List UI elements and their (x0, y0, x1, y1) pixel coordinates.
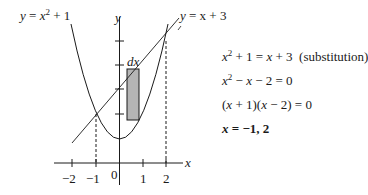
eq2-tail: − 2 = 0 (252, 73, 293, 88)
equation-solution: x = −1, 2 (222, 122, 269, 135)
line-curve (72, 18, 179, 143)
eq1-note: (substitution) (299, 49, 368, 64)
x-tick-label-2: 2 (163, 172, 170, 185)
eq3-tail: − 2) = 0 (267, 97, 312, 112)
y-axis-label: y (115, 11, 121, 24)
parabola-label-y: y (20, 8, 26, 23)
parabola-label-tail: + 1 (50, 8, 70, 23)
x-tick-label-1: 1 (140, 172, 147, 185)
x-axis-label: x (185, 156, 191, 169)
line-label-y: y (180, 8, 186, 23)
line-label-rhs: = x + 3 (189, 8, 226, 23)
line-label-pointer (178, 26, 181, 30)
eq1-tail: + 3 (272, 49, 299, 64)
eq1-mid: + 1 = (232, 49, 266, 64)
parabola-label: y = x2 + 1 (20, 9, 70, 22)
dx-label: dx (127, 55, 139, 68)
line-label: y = x + 3 (180, 9, 226, 22)
eq3-mid: + 1)( (232, 97, 261, 112)
eq2-minus: − (232, 73, 246, 88)
eq4-roots: = −1, 2 (229, 121, 270, 136)
origin-label: 0 (111, 168, 118, 181)
x-tick-label-neg1: −1 (86, 172, 100, 185)
equation-substitution: x2 + 1 = x + 3 (substitution) (222, 50, 368, 63)
equation-quadratic: x2 − x − 2 = 0 (222, 74, 293, 87)
equation-factored: (x + 1)(x − 2) = 0 (222, 98, 312, 111)
x-tick-label-neg2: −2 (62, 172, 76, 185)
